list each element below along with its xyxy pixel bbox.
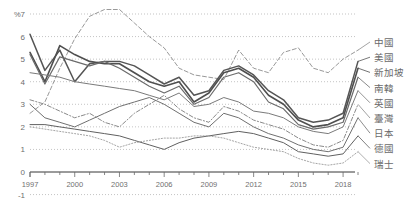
- x-tick-label-1997: 1997: [22, 180, 39, 189]
- series-line-0: [30, 10, 358, 114]
- x-tick-label-2009: 2009: [201, 180, 218, 189]
- x-axis: [30, 172, 358, 177]
- line-chart: 76543210-1% 1997200020032006200920122015…: [0, 0, 420, 205]
- leader-line-0: [358, 42, 370, 50]
- y-tick-label-0: 0: [21, 168, 26, 177]
- y-tick-label-6: 6: [21, 33, 26, 42]
- leader-line-6: [358, 118, 370, 133]
- x-tick-label-2000: 2000: [66, 180, 83, 189]
- leader-line-1: [358, 57, 370, 61]
- series-line-8: [30, 127, 358, 165]
- legend-leader-lines: [358, 42, 370, 164]
- series-line-2: [30, 46, 358, 127]
- x-tick-label-2006: 2006: [156, 180, 173, 189]
- leader-line-8: [358, 152, 370, 164]
- series-line-3: [30, 55, 358, 130]
- x-axis-labels: 19972000200320062009201220152018: [22, 180, 352, 189]
- y-tick-label-2: 2: [21, 123, 26, 132]
- legend-item-2[interactable]: 新加坡: [374, 65, 404, 79]
- leader-line-5: [358, 104, 370, 118]
- y-tick-label-3: 3: [21, 100, 26, 109]
- leader-line-3: [358, 77, 370, 87]
- series-lines: [30, 10, 358, 166]
- gridlines: [30, 14, 355, 195]
- y-axis-unit-label: %: [14, 10, 21, 19]
- legend-item-4[interactable]: 英國: [374, 96, 394, 110]
- leader-line-2: [358, 68, 370, 72]
- y-tick-label--1: -1: [18, 191, 26, 200]
- legend-item-1[interactable]: 美國: [374, 50, 394, 64]
- x-tick-label-2003: 2003: [111, 180, 128, 189]
- series-line-7: [30, 125, 358, 157]
- leader-line-7: [358, 136, 370, 149]
- legend-item-3[interactable]: 南韓: [374, 81, 394, 95]
- y-tick-label-1: 1: [21, 145, 26, 154]
- legend-item-0[interactable]: 中國: [374, 35, 394, 49]
- legend-item-5[interactable]: 臺灣: [374, 111, 394, 125]
- series-line-1: [30, 34, 358, 122]
- x-tick-label-2018: 2018: [335, 180, 352, 189]
- legend-item-8[interactable]: 瑞士: [374, 157, 394, 171]
- legend-item-6[interactable]: 日本: [374, 126, 394, 140]
- x-tick-label-2012: 2012: [245, 180, 262, 189]
- chart-container: 76543210-1% 1997200020032006200920122015…: [0, 0, 420, 205]
- y-axis-labels: 76543210-1%: [14, 10, 26, 200]
- y-tick-label-4: 4: [21, 78, 26, 87]
- y-tick-label-7: 7: [21, 10, 26, 19]
- x-tick-label-2015: 2015: [290, 180, 307, 189]
- legend-item-7[interactable]: 德國: [374, 141, 394, 155]
- leader-line-4: [358, 91, 370, 103]
- y-tick-label-5: 5: [21, 55, 26, 64]
